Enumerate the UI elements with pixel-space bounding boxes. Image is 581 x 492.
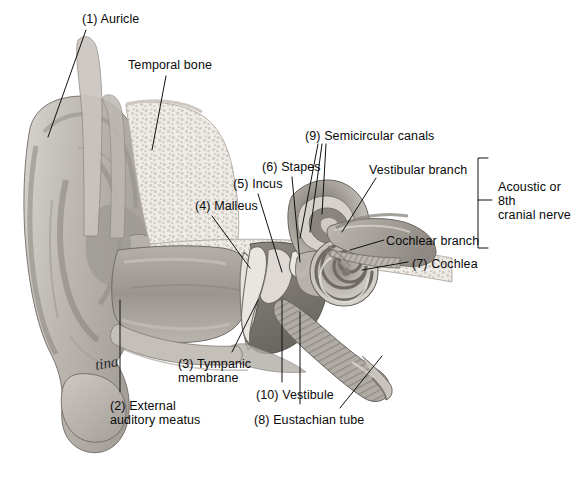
label-malleus: (4) Malleus	[195, 199, 258, 213]
label-incus: (5) Incus	[233, 177, 283, 191]
label-acoustic-nerve: Acoustic or 8th cranial nerve	[498, 180, 571, 222]
label-eustachian-tube: (8) Eustachian tube	[254, 413, 364, 427]
label-cochlea: (7) Cochlea	[412, 257, 478, 271]
label-vestibule: (10) Vestibule	[256, 388, 334, 402]
label-vestibular-branch: Vestibular branch	[369, 163, 467, 177]
label-cochlear-branch: Cochlear branch	[386, 234, 479, 248]
bracket-acoustic-nerve	[478, 158, 488, 248]
label-semicircular-canals: (9) Semicircular canals	[305, 129, 434, 143]
ear-anatomy-figure: tina (1) Auricle Temporal bone (9) Semic…	[0, 0, 581, 492]
external-auditory-meatus-structure	[112, 246, 251, 343]
label-tympanic-membrane: (3) Tympanic membrane	[178, 357, 251, 385]
label-stapes: (6) Stapes	[262, 160, 321, 174]
label-external-auditory-meatus: (2) External auditory meatus	[110, 399, 200, 427]
eustachian-tube-structure	[274, 299, 392, 401]
label-auricle: (1) Auricle	[82, 12, 139, 26]
label-temporal-bone: Temporal bone	[128, 58, 212, 72]
